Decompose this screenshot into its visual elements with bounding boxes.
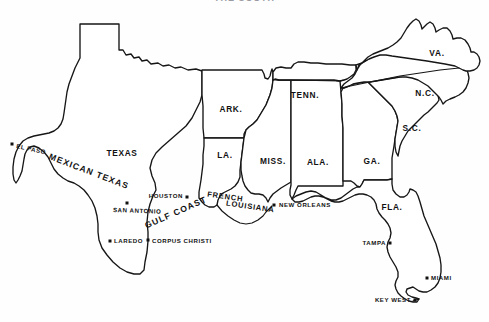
city-dot-houston[interactable] <box>186 196 189 199</box>
map-svg: TEXAS ARK. LA. MISS. ALA. GA. TENN. VA. … <box>0 0 489 322</box>
city-dot-new-orleans[interactable] <box>273 204 276 207</box>
state-label-south-carolina: S.C. <box>403 123 422 133</box>
state-label-north-carolina: N.C. <box>415 88 434 98</box>
map-container: THE SOUTH TEXAS <box>0 0 489 322</box>
city-label-houston: HOUSTON <box>149 192 183 199</box>
city-label-miami: MIAMI <box>431 274 452 281</box>
state-label-tennessee: TENN. <box>291 90 319 100</box>
city-label-tampa: TAMPA <box>362 239 386 246</box>
city-dot-key-west[interactable] <box>414 299 417 302</box>
state-label-alabama: ALA. <box>307 157 329 167</box>
state-label-georgia: GA. <box>364 156 381 166</box>
state-label-florida: FLA. <box>381 202 402 212</box>
city-dot-laredo[interactable] <box>109 240 112 243</box>
city-label-key-west: KEY WEST <box>375 296 411 303</box>
city-dot-tampa[interactable] <box>389 242 392 245</box>
city-label-laredo: LAREDO <box>114 237 143 244</box>
state-label-arkansas: ARK. <box>219 104 242 114</box>
city-label-corpus-christi: CORPUS CHRISTI <box>152 237 212 244</box>
city-dot-san-antonio[interactable] <box>126 202 129 205</box>
state-shape-tennessee[interactable] <box>273 62 356 81</box>
state-label-louisiana: LA. <box>217 150 232 160</box>
state-label-texas: TEXAS <box>106 148 137 158</box>
city-dot-miami[interactable] <box>426 277 429 280</box>
state-label-virginia: VA. <box>429 48 444 58</box>
city-dot-corpus-christi[interactable] <box>147 239 150 242</box>
city-dot-el-paso[interactable] <box>11 143 14 146</box>
city-label-new-orleans: NEW ORLEANS <box>279 201 331 208</box>
state-label-mississippi: MISS. <box>260 156 286 166</box>
